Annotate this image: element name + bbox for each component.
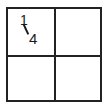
fraction-denominator: 4 [29,31,37,46]
fraction-grid: 1 4 [6,7,102,102]
horizontal-divider [8,55,100,57]
cell-bottom-left [8,57,54,103]
cell-top-left: 1 4 [8,9,54,55]
cell-bottom-right [56,57,102,103]
cell-top-right [56,9,102,55]
